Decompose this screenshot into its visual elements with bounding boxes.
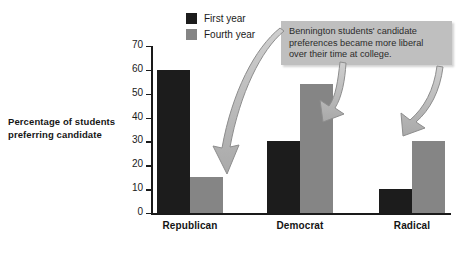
x-axis-label-democrat: Democrat [267, 220, 333, 231]
annotation-callout-line-3: over their time at college. [289, 49, 445, 61]
x-axis-line [151, 213, 451, 215]
y-axis-tick: 30 [146, 141, 151, 142]
y-axis-tick-label: 20 [132, 158, 143, 169]
x-axis-label-republican: Republican [157, 220, 223, 231]
bar-republican-fourth-year [190, 177, 223, 213]
y-axis-tick: 70 [146, 46, 151, 47]
y-axis-tick: 0 [146, 213, 151, 214]
y-axis-tick-label: 60 [132, 63, 143, 74]
annotation-callout: Bennington students' candidate preferenc… [281, 21, 452, 65]
y-axis-tick-label: 40 [132, 111, 143, 122]
plot-area: 010203040506070 RepublicanDemocratRadica… [151, 44, 451, 214]
y-axis-title: Percentage of students preferring candid… [8, 116, 136, 141]
legend-label-first-year: First year [204, 13, 246, 24]
annotation-callout-line-1: Bennington students' candidate [289, 26, 445, 38]
y-axis-tick: 40 [146, 118, 151, 119]
chart-legend: First year Fourth year [186, 11, 255, 43]
y-axis-tick-label: 50 [132, 87, 143, 98]
legend-label-fourth-year: Fourth year [204, 29, 255, 40]
y-axis-tick: 50 [146, 94, 151, 95]
y-axis-tick: 20 [146, 165, 151, 166]
y-axis-tick-label: 10 [132, 182, 143, 193]
y-axis-title-line-2: preferring candidate [8, 129, 136, 142]
annotation-callout-line-2: preferences became more liberal [289, 38, 445, 50]
legend-swatch-icon-first-year [186, 13, 197, 24]
bar-radical-first-year [379, 189, 412, 213]
y-axis-tick-label: 0 [137, 206, 143, 217]
y-axis-tick: 10 [146, 189, 151, 190]
bar-democrat-first-year [267, 141, 300, 213]
y-axis-tick-label: 70 [132, 39, 143, 50]
x-axis-label-radical: Radical [379, 220, 445, 231]
y-axis-tick: 60 [146, 70, 151, 71]
bar-republican-first-year [157, 70, 190, 213]
chart-figure: Percentage of students preferring candid… [0, 0, 460, 254]
legend-item-fourth-year: Fourth year [186, 27, 255, 41]
legend-swatch-icon-fourth-year [186, 29, 197, 40]
y-axis-tick-label: 30 [132, 134, 143, 145]
legend-item-first-year: First year [186, 11, 255, 25]
bar-democrat-fourth-year [300, 84, 333, 213]
y-axis-line [151, 46, 153, 213]
y-axis-title-line-1: Percentage of students [8, 116, 136, 129]
bar-radical-fourth-year [412, 141, 445, 213]
